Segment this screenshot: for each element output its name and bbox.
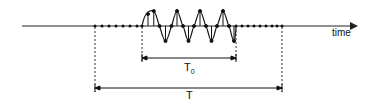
zero-samples-right <box>235 25 284 28</box>
t0-label: T0 <box>184 61 195 75</box>
t0-label-sub: 0 <box>191 68 195 75</box>
axis-arrow-icon <box>350 22 358 30</box>
t0-label-main: T <box>184 61 191 73</box>
signal-diagram <box>0 0 367 105</box>
t-label: T <box>186 89 193 101</box>
time-axis-label: time <box>332 27 351 38</box>
